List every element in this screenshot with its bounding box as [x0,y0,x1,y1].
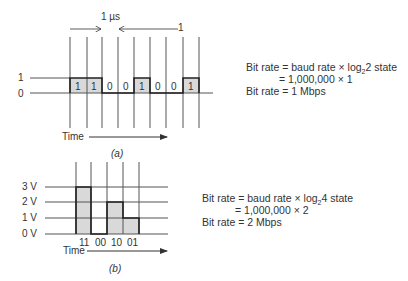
voltage-label-3v: 3 V [22,181,37,192]
bit-label: 1 [75,81,81,92]
eq-a-line1: Bit rate = baud rate × log [246,61,362,73]
eq-a-line1-suffix: 2 state [365,61,397,73]
bit-label: 0 [155,81,161,92]
level-label-0: 0 [18,88,24,99]
caption-a: (a) [111,148,123,159]
time-label-a: Time [62,131,84,142]
level-label-1: 1 [18,72,24,83]
eq-a-line2: = 1,000,000 × 1 [246,73,397,85]
part-b-waveform [45,162,168,251]
eq-b-line1-suffix: 4 state [321,192,353,204]
caption-b: (b) [109,263,121,274]
voltage-label-2v: 2 V [22,196,37,207]
symbol-label: 00 [95,237,106,248]
duration-label: 1 µs [101,11,120,22]
voltage-label-0v: 0 V [22,228,37,239]
voltage-label-1v: 1 V [22,212,37,223]
one-marker-label: 1 [178,22,184,33]
eq-a-line3: Bit rate = 1 Mbps [246,85,397,97]
equation-b: Bit rate = baud rate × log24 state = 1,0… [202,192,353,228]
bit-label: 0 [123,81,129,92]
bit-label: 0 [107,81,113,92]
equation-a: Bit rate = baud rate × log22 state = 1,0… [246,61,397,97]
eq-b-line2: = 1,000,000 × 2 [202,204,353,216]
eq-b-line3: Bit rate = 2 Mbps [202,216,353,228]
symbol-label: 10 [111,237,122,248]
bit-label: 1 [139,81,145,92]
bit-label: 1 [91,81,97,92]
time-label-b: Time [63,245,85,256]
part-a-waveform [30,29,213,137]
eq-b-line1: Bit rate = baud rate × log [202,192,318,204]
bit-label: 0 [171,81,177,92]
symbol-label: 01 [127,237,138,248]
bit-label: 1 [188,81,194,92]
